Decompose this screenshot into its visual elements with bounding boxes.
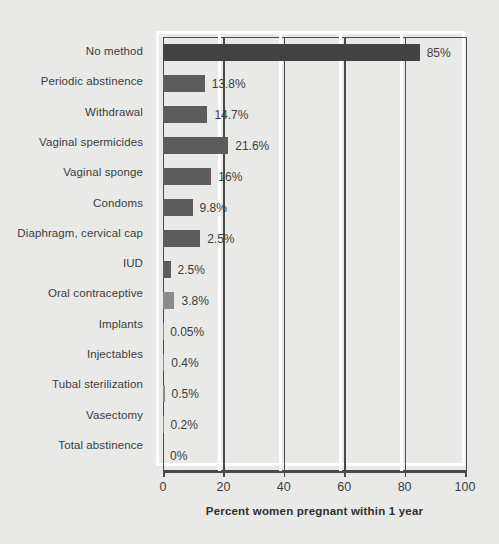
bar-row: 2.5% [163, 223, 465, 254]
bar-value-label: 3.8% [181, 294, 208, 308]
bar-value-label: 2.5% [207, 232, 234, 246]
bar-row: 0.5% [163, 378, 465, 409]
bar-value-label: 13.8% [212, 77, 246, 91]
x-axis-title: Percent women pregnant within 1 year [163, 505, 466, 517]
category-label: No method [0, 36, 152, 66]
bar [163, 416, 164, 433]
bar [163, 354, 164, 371]
category-label: Injectables [0, 339, 152, 369]
category-label: Tubal sterilization [0, 369, 152, 399]
category-label: Vaginal spermicides [0, 127, 152, 157]
x-tick [465, 471, 467, 477]
x-tick [405, 471, 407, 477]
bar-value-label: 0.2% [171, 418, 198, 432]
bar [163, 292, 174, 309]
x-tick-label: 100 [455, 480, 476, 494]
bar-row: 9.8% [163, 192, 465, 223]
bar-value-label: 85% [427, 46, 451, 60]
bar-row: 0.2% [163, 409, 465, 440]
category-label: Oral contraceptive [0, 278, 152, 308]
bar-chart: No methodPeriodic abstinenceWithdrawalVa… [0, 0, 499, 544]
bar [163, 75, 205, 92]
bar-series: 85%13.8%14.7%21.6%16%9.8%2.5%2.5%3.8%0.0… [163, 37, 465, 471]
category-label: IUD [0, 248, 152, 278]
category-label: Condoms [0, 187, 152, 217]
bar-value-label: 0.05% [170, 325, 204, 339]
category-label: Vaginal sponge [0, 157, 152, 187]
x-tick [344, 471, 346, 477]
x-tick-label: 80 [398, 480, 412, 494]
bar-row: 0.05% [163, 316, 465, 347]
bar-value-label: 2.5% [178, 263, 205, 277]
bar-value-label: 9.8% [200, 201, 227, 215]
bar [163, 168, 211, 185]
category-label-column: No methodPeriodic abstinenceWithdrawalVa… [0, 36, 152, 460]
x-tick-label: 60 [337, 480, 351, 494]
bar-row: 14.7% [163, 99, 465, 130]
bar-row: 0.4% [163, 347, 465, 378]
x-tick-label: 40 [277, 480, 291, 494]
category-label: Vasectomy [0, 399, 152, 429]
bar [163, 44, 420, 61]
category-label: Withdrawal [0, 97, 152, 127]
bar-row: 21.6% [163, 130, 465, 161]
bar-value-label: 0% [170, 449, 187, 463]
bar [163, 261, 171, 278]
bar-row: 13.8% [163, 68, 465, 99]
bar-value-label: 16% [218, 170, 242, 184]
category-label: Implants [0, 309, 152, 339]
x-tick-label: 0 [160, 480, 167, 494]
category-label: Diaphragm, cervical cap [0, 218, 152, 248]
bar-row: 16% [163, 161, 465, 192]
bar-row: 3.8% [163, 285, 465, 316]
bar [163, 385, 165, 402]
bar [163, 106, 207, 123]
x-tick [284, 471, 286, 477]
bar-row: 0% [163, 440, 465, 471]
bar-value-label: 14.7% [214, 108, 248, 122]
category-label: Periodic abstinence [0, 66, 152, 96]
bar [163, 137, 228, 154]
bar-value-label: 21.6% [235, 139, 269, 153]
category-label: Total abstinence [0, 430, 152, 460]
bar-row: 2.5% [163, 254, 465, 285]
bar-value-label: 0.4% [171, 356, 198, 370]
bar-row: 85% [163, 37, 465, 68]
bar [163, 230, 200, 247]
x-tick [223, 471, 225, 477]
bar-value-label: 0.5% [172, 387, 199, 401]
x-tick-label: 20 [216, 480, 230, 494]
bar [163, 199, 193, 216]
plot-area: 85%13.8%14.7%21.6%16%9.8%2.5%2.5%3.8%0.0… [163, 37, 465, 471]
x-tick [163, 471, 165, 477]
x-axis-line [163, 471, 466, 473]
